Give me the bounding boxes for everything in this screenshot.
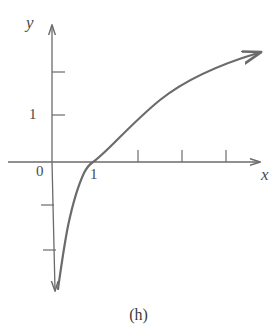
figure-panel: y x 0 1 1 (h) — [0, 0, 277, 334]
x-tick-label-one: 1 — [90, 167, 98, 182]
y-tick-label-one: 1 — [29, 107, 37, 122]
figure-caption: (h) — [0, 306, 277, 324]
x-axis-label: x — [261, 166, 269, 183]
y-axis-line-down — [52, 162, 55, 290]
y-axis-label: y — [26, 14, 34, 31]
origin-label: 0 — [36, 164, 44, 179]
log-curve — [58, 53, 258, 289]
